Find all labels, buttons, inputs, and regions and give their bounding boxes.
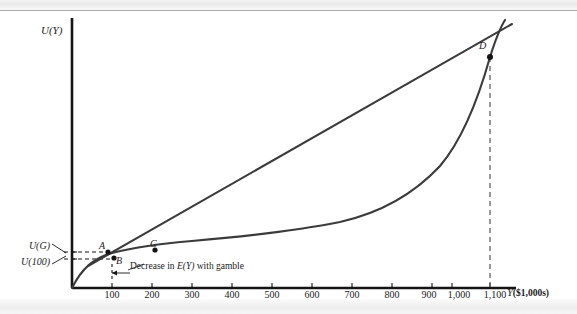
x-tick-label-100: 100 [92,289,132,300]
x-tick-label-800: 800 [372,289,412,300]
decrease-arrow [112,271,130,276]
point-label-b: B [116,255,122,266]
x-tick-label-300: 300 [172,289,212,300]
x-axis-title-unit: ($1,000s) [513,288,549,298]
x-tick-label-500: 500 [252,289,292,300]
leader-line-ug [52,244,66,253]
annotation-math: E(Y) [177,261,194,271]
x-tick-label-1000: 1,000 [439,289,479,300]
x-tick-label-400: 400 [212,289,252,300]
annotation-suffix: with gamble [194,261,244,271]
y-label-ug: U(G) [5,240,50,251]
point-label-d: D [479,40,486,51]
x-tick-label-200: 200 [132,289,172,300]
x-tick-label-1100: 1,100 [475,289,515,300]
decrease-annotation: Decrease in E(Y) with gamble [130,261,244,271]
data-point-d[interactable] [487,54,493,60]
utility-function-figure: U(Y) Y($1,000s) 100 200 300 400 500 600 … [0,0,577,314]
point-label-a: A [99,240,105,251]
annotation-prefix: Decrease in [130,261,177,271]
y-axis-title: U(Y) [41,24,62,36]
x-tick-label-700: 700 [332,289,372,300]
leader-line-u100 [52,256,66,264]
chart-canvas [0,0,577,314]
point-label-c: C [150,238,157,249]
y-label-u100: U(100) [2,256,50,267]
utility-curve [72,20,505,288]
data-point-a[interactable] [105,249,110,254]
x-tick-label-600: 600 [292,289,332,300]
